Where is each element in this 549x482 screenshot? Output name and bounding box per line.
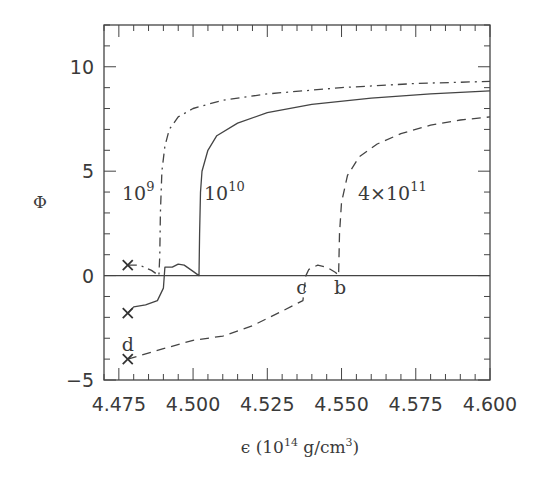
- svg-text:Φ: Φ: [33, 192, 47, 212]
- curve-label-1e9: 109: [122, 179, 154, 204]
- x-tick-label: 4.575: [389, 393, 443, 415]
- data-curves: [128, 81, 490, 359]
- curve-dash-dot: [128, 81, 490, 275]
- svg-text:4×1011: 4×1011: [358, 179, 427, 204]
- chart: 4.4754.5004.5254.5504.5754.600−50510 dcb…: [0, 0, 549, 482]
- y-tick-label: −5: [66, 369, 94, 391]
- x-tick-label: 4.600: [463, 393, 517, 415]
- axis-tick-labels: 4.4754.5004.5254.5504.5754.600−50510: [66, 56, 517, 415]
- y-tick-label: 10: [70, 56, 94, 78]
- curve-label-4e11: 4×1011: [358, 179, 427, 204]
- x-marker-icon: [123, 354, 133, 364]
- y-tick-label: 5: [82, 160, 94, 182]
- point-label-d: d: [122, 333, 134, 355]
- plot-frame: [104, 25, 490, 380]
- x-tick-label: 4.525: [240, 393, 294, 415]
- x-marker-icon: [123, 308, 133, 318]
- y-axis-title: Φ: [33, 192, 47, 212]
- point-label-c: c: [296, 276, 307, 298]
- axis-ticks: [104, 25, 490, 380]
- x-tick-label: 4.475: [92, 393, 146, 415]
- x-tick-label: 4.550: [314, 393, 368, 415]
- x-axis-title: ϵ (1014 g/cm3): [241, 436, 360, 457]
- svg-text:109: 109: [122, 179, 154, 204]
- point-label-b: b: [334, 276, 346, 298]
- x-tick-label: 4.500: [166, 393, 220, 415]
- y-tick-label: 0: [82, 265, 94, 287]
- svg-text:ϵ (1014 g/cm3): ϵ (1014 g/cm3): [241, 436, 360, 457]
- annotations: dcb: [122, 276, 346, 354]
- plot-border: [104, 25, 490, 380]
- curve-label-1e10: 1010: [204, 179, 245, 204]
- curve-dashed: [128, 117, 490, 359]
- svg-text:1010: 1010: [204, 179, 245, 204]
